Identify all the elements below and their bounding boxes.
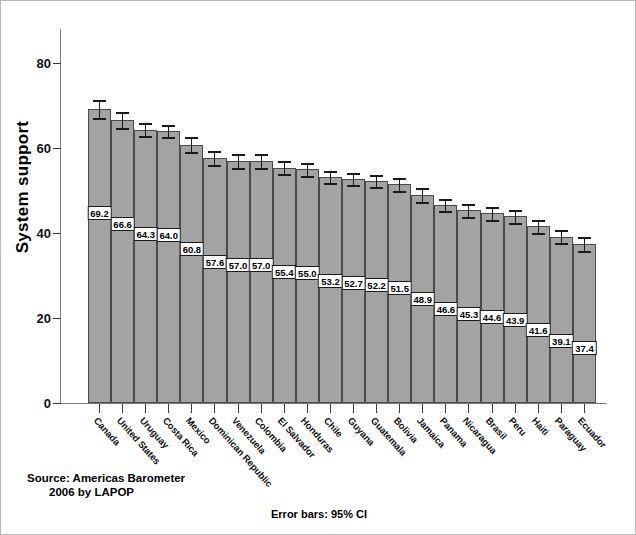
bar[interactable] — [273, 168, 296, 403]
bar-value-label: 51.5 — [387, 281, 412, 295]
x-axis-tick — [238, 404, 239, 413]
bar-group: 52.2Guatemala — [365, 29, 388, 403]
error-bar — [238, 154, 239, 168]
error-bar-cap-upper — [208, 151, 221, 153]
x-axis-tick — [561, 404, 562, 413]
y-axis-tick-label: 20 — [1, 311, 51, 326]
bar[interactable] — [296, 169, 319, 403]
error-bar-cap-upper — [301, 163, 314, 165]
bar-value-label: 60.8 — [180, 242, 205, 256]
error-bar-cap-lower — [185, 152, 198, 154]
bar-group: 55.0Honduras — [296, 29, 319, 403]
bar-value-label: 44.6 — [480, 310, 505, 324]
error-bar-cap-lower — [578, 251, 591, 253]
bar-group: 52.7Guyana — [342, 29, 365, 403]
bar-value-label: 64.3 — [133, 227, 158, 241]
error-bar-cap-lower — [439, 211, 452, 213]
error-bar-cap-upper — [324, 171, 337, 173]
bar[interactable] — [573, 244, 596, 403]
error-bar — [214, 151, 215, 165]
bar[interactable] — [504, 216, 527, 403]
error-bar-cap-upper — [416, 188, 429, 190]
bar-group: 60.8Mexico — [180, 29, 203, 403]
error-bar-cap-lower — [462, 217, 475, 219]
bar-value-label: 52.7 — [341, 276, 366, 290]
bar[interactable] — [550, 237, 573, 403]
error-bar-cap-upper — [185, 137, 198, 139]
bar-group: 69.2Canada — [88, 29, 111, 403]
bar[interactable] — [180, 145, 203, 403]
bar-group: 57.0Colombia — [250, 29, 273, 403]
bar-value-label: 37.4 — [572, 341, 597, 355]
y-axis-tick-label: 40 — [1, 226, 51, 241]
x-axis-tick — [584, 404, 585, 413]
bar-group: 46.6Panama — [434, 29, 457, 403]
bar-value-label: 57.0 — [249, 258, 274, 272]
error-bar-cap-lower — [93, 118, 106, 120]
bar-value-label: 46.6 — [434, 302, 459, 316]
error-bar — [584, 237, 585, 251]
error-bar-cap-upper — [555, 230, 568, 232]
error-bar-cap-lower — [486, 220, 499, 222]
bar-value-label: 57.0 — [226, 258, 251, 272]
bar[interactable] — [134, 130, 157, 403]
y-axis-tick-label: 60 — [1, 141, 51, 156]
source-note-line1: Source: Americas Barometer — [27, 472, 185, 484]
error-bar-cap-upper — [232, 154, 245, 156]
bar[interactable] — [203, 158, 226, 403]
bar[interactable] — [157, 131, 180, 403]
bar[interactable] — [319, 177, 342, 403]
error-bar-cap-upper — [393, 178, 406, 180]
source-note: Source: Americas Barometer 2006 by LAPOP — [27, 471, 185, 499]
bar-value-label: 43.9 — [503, 313, 528, 327]
bar-group: 43.9Peru — [504, 29, 527, 403]
error-bar-cap-lower — [162, 137, 175, 139]
x-axis-tick — [468, 404, 469, 413]
error-bar-cap-upper — [486, 207, 499, 209]
y-axis-tick-label: 0 — [1, 396, 51, 411]
bar-group: 51.5Bolivia — [388, 29, 411, 403]
y-axis-tick — [53, 63, 61, 64]
y-axis-tick — [53, 233, 61, 234]
error-bar-cap-lower — [301, 176, 314, 178]
y-axis-tick — [53, 148, 61, 149]
error-bar-cap-lower — [347, 185, 360, 187]
x-axis-category-label: Peru — [507, 415, 529, 438]
bar-value-label: 39.1 — [549, 334, 574, 348]
x-axis-tick — [330, 404, 331, 413]
bar[interactable] — [88, 109, 111, 403]
x-axis-tick — [445, 404, 446, 413]
error-bar-cap-upper — [93, 100, 106, 102]
error-bar-cap-lower — [278, 174, 291, 176]
error-bar — [191, 137, 192, 152]
error-bar-cap-upper — [116, 112, 129, 114]
error-bar-cap-lower — [255, 168, 268, 170]
bar-value-label: 57.6 — [203, 255, 228, 269]
error-bar-cap-upper — [439, 199, 452, 201]
bar-value-label: 45.3 — [457, 307, 482, 321]
bar-value-label: 52.2 — [364, 278, 389, 292]
error-bar — [122, 112, 123, 128]
bar-value-label: 69.2 — [87, 206, 112, 220]
bar-group: 57.6Dominican Republic — [203, 29, 226, 403]
x-axis-tick — [353, 404, 354, 413]
error-bar — [422, 188, 423, 202]
error-bar-cap-lower — [208, 165, 221, 167]
bar[interactable] — [527, 226, 550, 403]
bar[interactable] — [481, 213, 504, 403]
bar-group: 55.4El Salvador — [273, 29, 296, 403]
bar-group: 64.0Costa Rica — [157, 29, 180, 403]
bar[interactable] — [250, 161, 273, 403]
error-bar-cap-upper — [370, 175, 383, 177]
bar[interactable] — [227, 161, 250, 403]
x-axis-tick — [284, 404, 285, 413]
bar[interactable] — [111, 120, 134, 403]
bar-group: 66.6United States — [111, 29, 134, 403]
error-bar-cap-upper — [532, 220, 545, 222]
bar[interactable] — [342, 179, 365, 403]
error-bar-cap-upper — [139, 123, 152, 125]
x-axis-tick — [214, 404, 215, 413]
x-axis-tick — [168, 404, 169, 413]
error-bar-cap-upper — [278, 161, 291, 163]
x-axis-tick — [191, 404, 192, 413]
